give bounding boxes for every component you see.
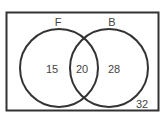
set-b-label: B <box>108 16 115 28</box>
venn-diagram: F B 15 20 28 32 <box>0 0 164 115</box>
outside-value: 32 <box>136 98 148 110</box>
set-f-label: F <box>55 16 62 28</box>
only-f-value: 15 <box>46 63 58 75</box>
only-b-value: 28 <box>108 63 120 75</box>
intersection-value: 20 <box>76 63 88 75</box>
